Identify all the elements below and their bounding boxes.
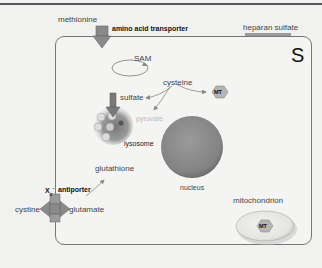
diagram-graphics [0, 0, 322, 268]
xc-symbol-sub: c [50, 191, 53, 197]
label-heparan-sulfate: heparan sulfate [243, 23, 298, 32]
label-sulfate: sulfate [120, 93, 144, 102]
label-antiporter: antiporter [58, 186, 91, 193]
mt-text-cytosol: MT [214, 89, 222, 95]
label-nucleus: nucleus [180, 184, 204, 191]
panel-label: S [291, 44, 304, 67]
label-sam: SAM [134, 54, 151, 63]
label-glutamate: glutamate [69, 205, 104, 214]
mt-text-mito: MT [259, 223, 267, 229]
arrow-cysteine-to-pyruvate [154, 87, 170, 110]
nucleus [161, 116, 223, 178]
label-amino-acid-transporter: amino acid transporter [112, 25, 188, 32]
label-methionine: methionine [58, 15, 97, 24]
label-pyruvate: pyruvate [136, 115, 163, 122]
label-xc-symbol: Xc- [45, 185, 54, 197]
label-mitochondrion: mitochondrion [233, 196, 283, 205]
label-glutathione: glutathione [95, 164, 134, 173]
label-cysteine: cysteine [163, 78, 192, 87]
xc-antiporter [40, 194, 70, 222]
arrow-cysteine-to-sulfate [146, 86, 172, 98]
xc-symbol-sup: - [52, 185, 54, 191]
amino-acid-transporter-arrow [93, 26, 111, 48]
label-lysosome: lysosome [124, 140, 154, 147]
label-cystine: cystine [15, 205, 40, 214]
